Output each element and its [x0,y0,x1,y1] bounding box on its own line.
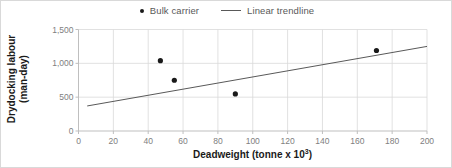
x-tick-label: 180 [385,136,399,146]
chart-figure: Bulk carrier Linear trendline Drydocking… [0,0,452,168]
x-tick-label: 200 [420,136,434,146]
data-point-marker [374,48,379,53]
x-tick-label: 0 [76,136,81,146]
y-tick-label: 1,000 [52,58,74,68]
x-tick-label: 40 [143,136,153,146]
y-tick-label: 1,500 [52,25,74,35]
plot-area: 05001,0001,50002040608010012014016018020… [1,1,452,168]
y-tick-label: 0 [69,126,74,136]
y-tick-label: 500 [59,92,73,102]
grid-lines [79,30,428,132]
x-tick-label: 80 [213,136,223,146]
data-point-marker [233,91,238,96]
data-points [158,48,379,97]
x-tick-label: 100 [246,136,260,146]
data-point-marker [158,58,163,63]
x-tick-label: 160 [350,136,364,146]
x-tick-label: 20 [109,136,119,146]
x-tick-label: 140 [315,136,329,146]
x-tick-label: 120 [281,136,295,146]
data-point-marker [172,78,177,83]
x-tick-label: 60 [178,136,188,146]
